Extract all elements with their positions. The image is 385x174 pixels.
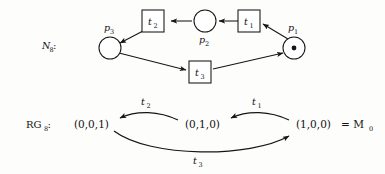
net-caption-colon: : <box>53 40 56 51</box>
transition-t1-subscript: 1 <box>250 22 254 30</box>
state-marking-right-annotation: = M <box>341 118 364 130</box>
place-p2-subscript: 2 <box>205 40 209 48</box>
place-p3-circle[interactable] <box>99 37 121 59</box>
rg-edge-t1-label: t <box>252 96 256 107</box>
state-marking-right-annotation-subscript: 0 <box>369 125 373 133</box>
rg-edge-t3-label-subscript: 3 <box>199 161 203 169</box>
transition-t3-label: t <box>195 67 199 78</box>
net-caption: N 8 : <box>41 40 56 54</box>
place-p1[interactable]: p 1 <box>283 22 305 59</box>
state-node-middle[interactable]: (0,1,0) <box>185 118 220 130</box>
rg-caption-colon: : <box>48 119 51 130</box>
transition-t1[interactable]: t 1 <box>238 10 260 32</box>
petri-net-figure: N 8 : p 3 <box>0 0 385 174</box>
rg-edge-t1 <box>231 113 289 120</box>
rg-edge-t2-label: t <box>141 96 145 107</box>
rg-edge-t2 <box>120 113 178 120</box>
place-p3-subscript: 3 <box>110 28 114 36</box>
rg-caption-text: RG <box>26 119 42 130</box>
state-node-left[interactable]: (0,0,1) <box>74 118 109 130</box>
place-p1-subscript: 1 <box>294 28 298 36</box>
rg-edge-t3 <box>114 131 289 152</box>
place-p1-token <box>292 46 297 51</box>
rg-caption: RG 8 : <box>26 119 51 133</box>
state-node-right[interactable]: (1,0,0) = M 0 <box>296 118 373 133</box>
place-p2-circle[interactable] <box>194 10 216 32</box>
state-marking-middle: (0,1,0) <box>185 118 220 130</box>
arc-t3-p1 <box>213 53 283 69</box>
rg-edge-t1-label-subscript: 1 <box>258 102 262 110</box>
rg-edge-t2-label-subscript: 2 <box>147 102 151 110</box>
reachability-graph-group: RG 8 : (0,0,1) (0,1,0) (1,0,0) = M 0 t 1 <box>26 96 373 169</box>
transition-t3-subscript: 3 <box>201 73 205 81</box>
arc-t2-p3 <box>120 31 143 43</box>
figure-page: N 8 : p 3 <box>0 0 385 174</box>
transition-t1-label: t <box>244 16 248 27</box>
transition-t2-subscript: 2 <box>154 22 158 30</box>
state-marking-left: (0,0,1) <box>74 118 109 130</box>
transition-t2-label: t <box>148 16 152 27</box>
arc-p3-t3 <box>119 53 186 70</box>
transition-t3[interactable]: t 3 <box>189 61 211 83</box>
rg-edge-t3-label: t <box>193 155 197 166</box>
arc-p1-t1 <box>263 24 288 39</box>
petri-net-group: N 8 : p 3 <box>41 10 305 83</box>
place-p3[interactable]: p 3 <box>99 22 121 59</box>
state-marking-right: (1,0,0) <box>296 118 331 130</box>
transition-t2[interactable]: t 2 <box>142 10 164 32</box>
place-p2[interactable]: p 2 <box>194 10 216 48</box>
